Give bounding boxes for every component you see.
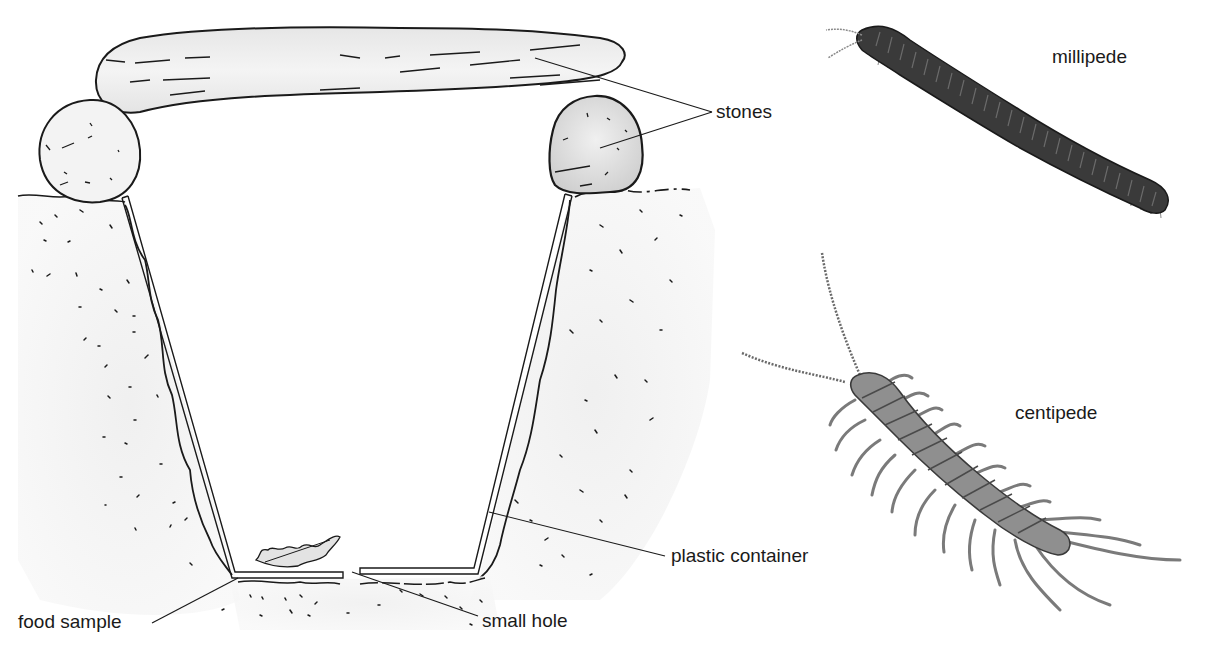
stones-leader-top <box>535 58 712 112</box>
centipede-label: centipede <box>1015 402 1097 424</box>
plastic-container-label: plastic container <box>671 545 808 567</box>
soil-bottom <box>230 576 500 630</box>
soil-left <box>18 195 240 615</box>
top-stone <box>96 27 625 112</box>
pitfall-trap-diagram <box>0 0 1205 654</box>
stones-label: stones <box>716 101 772 123</box>
small-hole-label: small hole <box>482 610 568 632</box>
millipede-label: millipede <box>1052 46 1127 68</box>
food-sample <box>256 536 340 567</box>
food-sample-label: food sample <box>18 611 122 633</box>
left-stone <box>39 100 140 202</box>
right-stone <box>549 96 642 193</box>
